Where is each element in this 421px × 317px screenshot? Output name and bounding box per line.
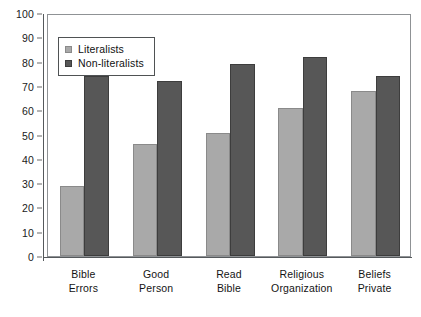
bar-1 <box>84 76 109 256</box>
bar-0 <box>351 91 376 256</box>
y-tick-mark <box>37 135 42 136</box>
legend-item: Literalists <box>65 42 144 56</box>
chart-legend: LiteralistsNon-literalists <box>58 37 155 76</box>
y-tick-label: 60 <box>22 105 34 117</box>
y-axis-line <box>43 14 44 261</box>
bar-0 <box>206 133 231 256</box>
x-axis-labels: BibleErrorsGoodPersonReadBibleReligiousO… <box>47 268 411 312</box>
bar-chart: 0102030405060708090100 BibleErrorsGoodPe… <box>0 0 421 317</box>
bar-group <box>206 15 255 256</box>
bar-0 <box>60 186 85 256</box>
y-tick-label: 70 <box>22 81 34 93</box>
y-tick-mark <box>37 159 42 160</box>
legend-swatch-non-literalists <box>65 60 72 67</box>
legend-item: Non-literalists <box>65 56 144 70</box>
y-tick-mark <box>37 86 42 87</box>
bar-1 <box>376 76 401 256</box>
bar-0 <box>133 144 158 256</box>
y-tick-label: 20 <box>22 202 34 214</box>
y-axis: 0102030405060708090100 <box>0 14 44 260</box>
bar-group <box>351 15 400 256</box>
legend-swatch-literalists <box>65 46 72 53</box>
bar-1 <box>230 64 255 256</box>
legend-label: Literalists <box>78 43 124 55</box>
y-tick-label: 90 <box>22 32 34 44</box>
y-tick-label: 30 <box>22 178 34 190</box>
y-tick-label: 80 <box>22 57 34 69</box>
x-axis-label: GoodPerson <box>120 268 193 295</box>
y-tick-label: 100 <box>16 8 34 20</box>
y-tick-mark <box>37 208 42 209</box>
y-tick-label: 10 <box>22 227 34 239</box>
y-tick-mark <box>37 232 42 233</box>
x-axis-label: ReligiousOrganization <box>265 268 338 295</box>
legend-label: Non-literalists <box>78 57 144 69</box>
bar-group <box>278 15 327 256</box>
x-axis-label: BeliefsPrivate <box>338 268 411 295</box>
y-tick-label: 0 <box>28 251 34 263</box>
y-tick-mark <box>37 257 42 258</box>
x-axis-line <box>43 257 412 258</box>
x-axis-label: ReadBible <box>193 268 266 295</box>
bar-0 <box>278 108 303 256</box>
y-tick-label: 40 <box>22 154 34 166</box>
y-tick-mark <box>37 62 42 63</box>
y-tick-mark <box>37 14 42 15</box>
x-axis-label: BibleErrors <box>47 268 120 295</box>
y-tick-mark <box>37 38 42 39</box>
y-tick-mark <box>37 184 42 185</box>
y-tick-mark <box>37 111 42 112</box>
y-tick-label: 50 <box>22 130 34 142</box>
bar-1 <box>157 81 182 256</box>
bar-1 <box>303 57 328 256</box>
